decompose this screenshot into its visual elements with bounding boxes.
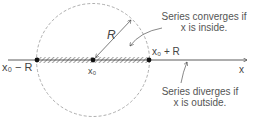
diverges-line2: x is outside. <box>148 97 252 108</box>
label-left-endpoint: x₀ − R <box>2 62 33 73</box>
right-endpoint-dot <box>147 58 152 63</box>
center-dot <box>91 58 96 63</box>
label-radius: R <box>107 30 116 41</box>
diverges-note: Series diverges if x is outside. <box>148 86 252 108</box>
label-axis: x <box>239 64 244 75</box>
left-endpoint-dot <box>35 58 40 63</box>
converges-note: Series converges if x is inside. <box>152 11 256 33</box>
converges-line2: x is inside. <box>152 22 256 33</box>
diverges-pointer <box>181 62 187 83</box>
label-right-endpoint: x₀ + R <box>152 46 180 57</box>
label-center: x₀ <box>88 66 96 77</box>
diverges-line1: Series diverges if <box>148 86 252 97</box>
converges-line1: Series converges if <box>152 11 256 22</box>
